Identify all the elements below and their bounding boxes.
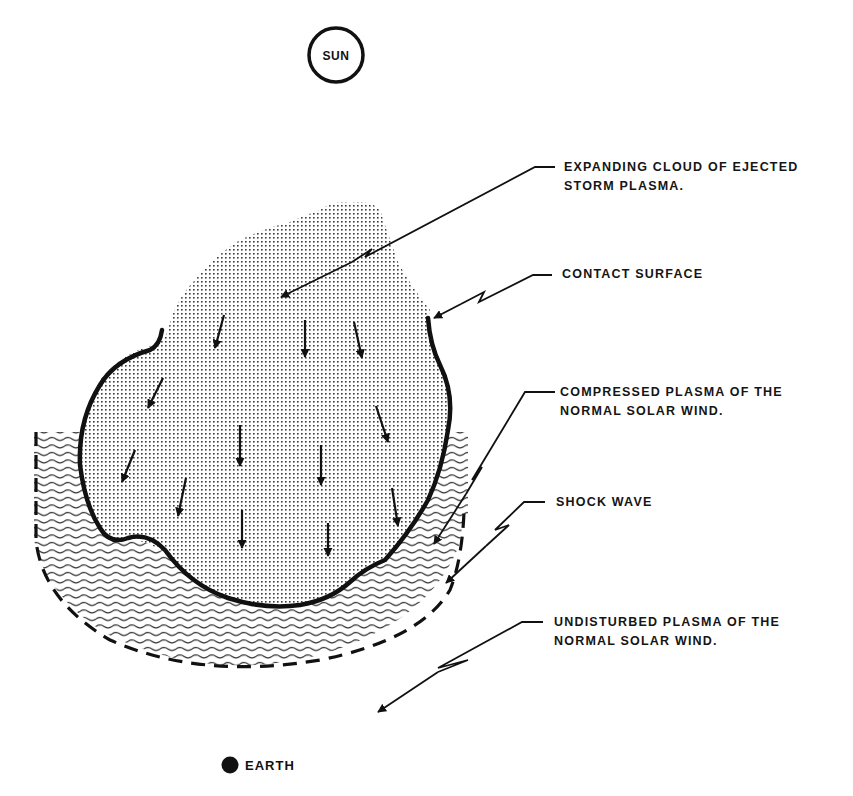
label-contact-surface: CONTACT SURFACE [562, 265, 703, 284]
label-shock-wave: SHOCK WAVE [556, 493, 653, 512]
leader-undisturbed-plasma [378, 622, 543, 712]
label-line: NORMAL SOLAR WIND. [560, 402, 783, 421]
label-line: SHOCK WAVE [556, 493, 653, 512]
earth-icon [222, 757, 239, 774]
leader-contact-surface [434, 275, 552, 318]
label-line: CONTACT SURFACE [562, 265, 703, 284]
label-line: NORMAL SOLAR WIND. [554, 632, 780, 651]
label-line: COMPRESSED PLASMA OF THE [560, 383, 783, 402]
label-compressed-plasma: COMPRESSED PLASMA OF THE NORMAL SOLAR WI… [560, 383, 783, 421]
label-undisturbed-plasma: UNDISTURBED PLASMA OF THE NORMAL SOLAR W… [554, 613, 780, 651]
label-line: STORM PLASMA. [564, 177, 798, 196]
label-line: EXPANDING CLOUD OF EJECTED [564, 158, 798, 177]
label-line: UNDISTURBED PLASMA OF THE [554, 613, 780, 632]
earth-label: EARTH [245, 758, 295, 773]
sun-label: SUN [307, 49, 365, 63]
label-expanding-cloud: EXPANDING CLOUD OF EJECTED STORM PLASMA. [564, 158, 798, 196]
